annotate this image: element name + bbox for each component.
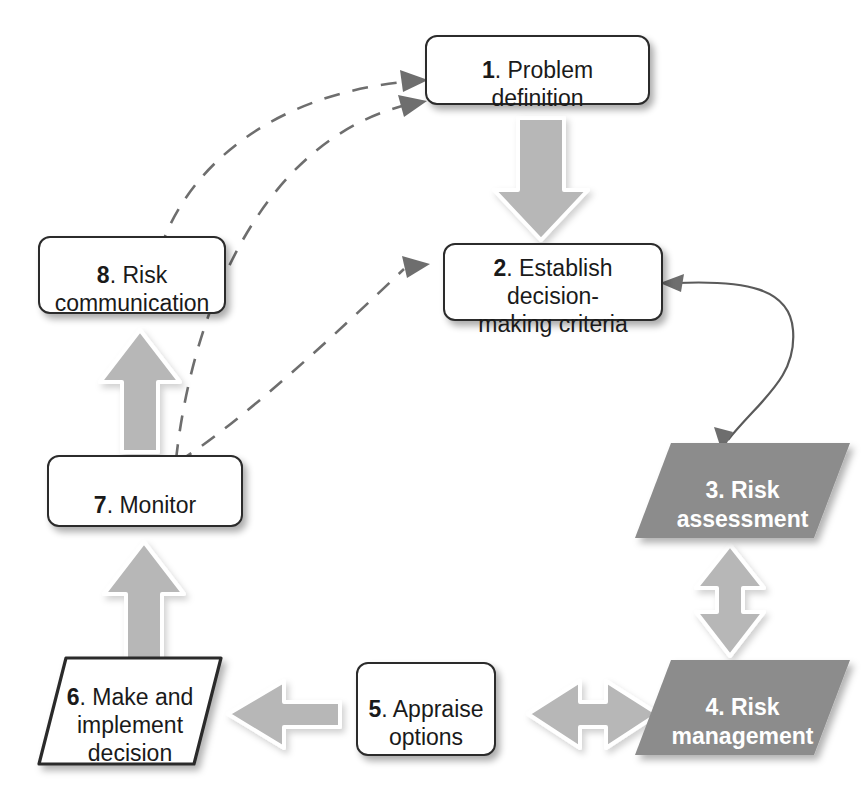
thin-connector-2-to-3 [660, 274, 793, 452]
dashed-connector-8-to-1 [160, 70, 428, 250]
node-2-number: 2 [494, 255, 507, 281]
node-2-label: 2. Establish decision- making criteria [445, 226, 661, 338]
node-5-label: 5. Appraise options [362, 667, 489, 751]
diagram-canvas: 1. Problem definition 2. Establish decis… [0, 0, 867, 800]
node-8-text: . Risk communication [55, 262, 210, 316]
arrowhead-into-node-1-from-8 [400, 70, 428, 92]
node-7-number: 7 [94, 492, 107, 518]
node-1-label: 1. Problem definition [427, 28, 648, 112]
node-4-label: 4. Risk management [635, 665, 850, 749]
block-arrow-3-to-4-bidirectional [696, 545, 764, 656]
node-4-number: 4 [705, 694, 718, 720]
block-arrow-6-to-7 [104, 542, 184, 666]
node-8-number: 8 [97, 262, 110, 288]
node-5-number: 5 [368, 696, 381, 722]
node-1-number: 1 [482, 57, 495, 83]
arrowhead-into-node-1-from-7 [398, 95, 427, 117]
node-1-problem-definition[interactable]: 1. Problem definition [425, 35, 650, 105]
node-4-risk-management[interactable]: 4. Risk management [635, 660, 850, 755]
node-3-risk-assessment[interactable]: 3. Risk assessment [635, 443, 850, 538]
node-6-make-and-implement-decision[interactable]: 6. Make and implement decision [35, 656, 225, 766]
node-2-establish-decision-making-criteria[interactable]: 2. Establish decision- making criteria [443, 243, 663, 321]
node-3-text: . Risk assessment [677, 477, 809, 531]
node-5-text: . Appraise options [381, 696, 483, 750]
block-arrow-5-to-6 [228, 681, 340, 748]
block-arrow-1-to-2 [494, 118, 588, 240]
node-3-label: 3. Risk assessment [635, 448, 850, 532]
node-8-risk-communication[interactable]: 8. Risk communication [38, 236, 226, 314]
node-5-appraise-options[interactable]: 5. Appraise options [356, 662, 496, 756]
node-8-label: 8. Risk communication [49, 233, 216, 317]
node-7-text: . Monitor [107, 492, 196, 518]
node-3-number: 3 [705, 477, 718, 503]
block-arrow-7-to-8 [100, 330, 180, 452]
arrowhead-into-node-2-from-7 [402, 256, 430, 278]
arrowhead-into-node-2 [660, 274, 684, 292]
node-7-monitor[interactable]: 7. Monitor [47, 455, 243, 527]
node-6-text: . Make and implement decision [77, 684, 193, 766]
node-1-text: . Problem definition [491, 57, 593, 111]
node-4-text: . Risk management [672, 694, 814, 748]
node-6-label: 6. Make and implement decision [35, 655, 225, 767]
node-6-number: 6 [67, 684, 80, 710]
node-7-label: 7. Monitor [88, 463, 202, 519]
